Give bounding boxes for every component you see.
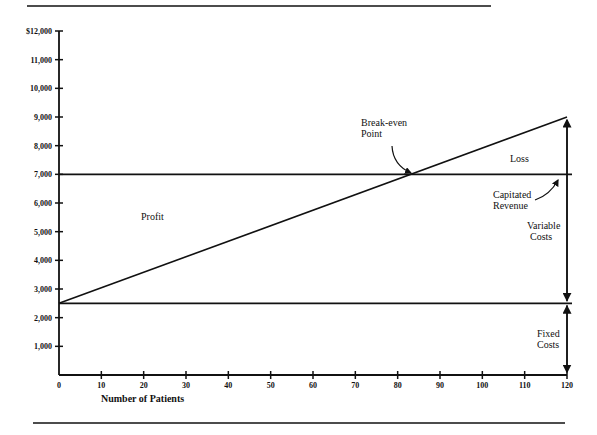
variable-costs-label: Costs (530, 231, 552, 242)
y-tick-label: 1,000 (34, 342, 52, 351)
break-even-arrow (392, 146, 411, 173)
y-tick-label: 3,000 (34, 285, 52, 294)
break-even-chart: 1,0002,0003,0004,0005,0006,0007,0008,000… (0, 0, 597, 435)
series-lines (59, 117, 572, 372)
y-tick-label: 10,000 (30, 84, 52, 93)
x-tick-label: 30 (182, 381, 190, 390)
y-tick-label: 4,000 (34, 256, 52, 265)
x-tick-label: 40 (224, 381, 232, 390)
break-even-label: Point (361, 128, 382, 139)
y-tick-label: 9,000 (34, 113, 52, 122)
x-tick-label: 60 (309, 381, 317, 390)
y-tick-label: 6,000 (34, 199, 52, 208)
y-axis: 1,0002,0003,0004,0005,0006,0007,0008,000… (26, 27, 63, 375)
x-tick-label: 10 (97, 381, 105, 390)
capitated-revenue-arrow (535, 180, 558, 200)
y-tick-label: 5,000 (34, 228, 52, 237)
capitated-revenue-label: Revenue (493, 200, 529, 211)
y-tick-label: $12,000 (26, 27, 52, 36)
x-tick-label: 50 (267, 381, 275, 390)
x-tick-label: 100 (476, 381, 488, 390)
loss-label: Loss (510, 153, 529, 164)
y-tick-label: 11,000 (30, 56, 52, 65)
x-tick-label: 90 (436, 381, 444, 390)
fixed-costs-label: Fixed (537, 328, 560, 339)
y-tick-label: 7,000 (34, 170, 52, 179)
x-tick-label: 80 (394, 381, 402, 390)
x-axis: 0102030405060708090100110120 (57, 371, 573, 390)
y-tick-label: 8,000 (34, 142, 52, 151)
break-even-label: Break-even (361, 117, 407, 128)
x-tick-label: 120 (561, 381, 573, 390)
x-axis-title: Number of Patients (101, 393, 184, 404)
fixed-costs-label: Costs (537, 339, 559, 350)
x-tick-label: 110 (519, 381, 531, 390)
y-tick-label: 2,000 (34, 314, 52, 323)
series-line (59, 117, 567, 303)
x-tick-label: 20 (140, 381, 148, 390)
capitated-revenue-label: Capitated (493, 189, 531, 200)
x-tick-label: 0 (57, 381, 61, 390)
profit-label: Profit (141, 211, 164, 222)
variable-costs-label: Variable (527, 220, 561, 231)
x-tick-label: 70 (351, 381, 359, 390)
